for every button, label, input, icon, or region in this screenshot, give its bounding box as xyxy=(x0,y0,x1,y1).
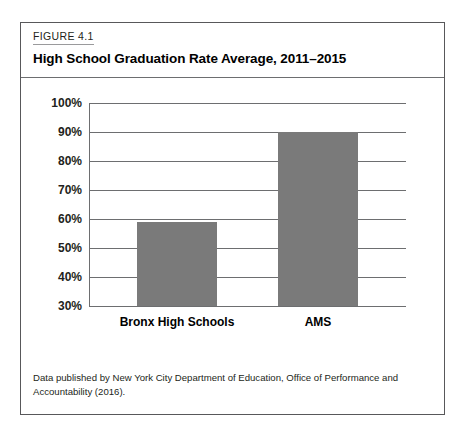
gridline-100 xyxy=(90,103,406,104)
x-axis-category-label: AMS xyxy=(305,315,332,329)
y-axis-tick-label: 70% xyxy=(58,184,82,196)
gridline-60 xyxy=(90,219,406,220)
figure-number-label: FIGURE 4.1 xyxy=(33,30,94,45)
y-axis-tick-label: 80% xyxy=(58,155,82,167)
y-axis-tick-label: 50% xyxy=(58,242,82,254)
source-note: Data published by New York City Departme… xyxy=(33,371,418,399)
y-axis-tick-label: 60% xyxy=(58,213,82,225)
y-axis-tick-label: 90% xyxy=(58,126,82,138)
figure-title: High School Graduation Rate Average, 201… xyxy=(33,50,346,68)
x-axis-category-label: Bronx High Schools xyxy=(120,315,235,329)
y-axis-tick-label: 100% xyxy=(51,97,82,109)
gridline-90 xyxy=(90,132,406,133)
gridline-70 xyxy=(90,190,406,191)
chart-area: 100%90%80%70%60%50%40%30%Bronx High Scho… xyxy=(21,78,444,361)
bar-ams xyxy=(278,132,358,306)
y-axis-tick-label: 30% xyxy=(58,300,82,312)
figure-container: FIGURE 4.1 High School Graduation Rate A… xyxy=(20,22,445,415)
gridline-30 xyxy=(90,306,406,307)
y-axis-tick-label: 40% xyxy=(58,271,82,283)
gridline-80 xyxy=(90,161,406,162)
figure-header: FIGURE 4.1 High School Graduation Rate A… xyxy=(21,23,444,78)
plot-region: 100%90%80%70%60%50%40%30%Bronx High Scho… xyxy=(90,103,406,306)
bar-bronx-high-schools xyxy=(137,222,217,306)
